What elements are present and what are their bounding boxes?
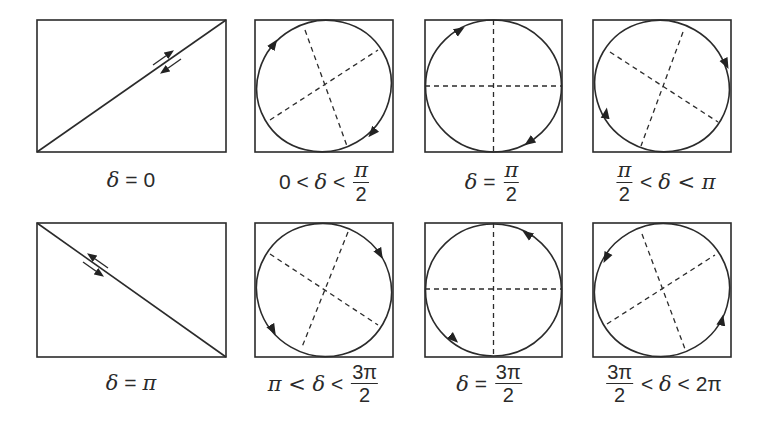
relation: < (634, 170, 658, 194)
relation: = (120, 168, 144, 192)
rotation-arrow-icon (372, 118, 385, 133)
label-delta-pi: δ = π (106, 371, 156, 395)
fraction: 3π 2 (495, 362, 522, 405)
panel-delta-0-to-pi-over-2 (233, 0, 416, 176)
denominator: 2 (359, 384, 370, 405)
fraction: 3π 2 (606, 362, 633, 405)
lower-bound: 0 < (279, 170, 315, 194)
polarization-ellipse (233, 0, 416, 176)
delta-symbol: δ (106, 371, 119, 395)
major-axis-dashed (607, 255, 715, 324)
value: 0 (143, 168, 155, 192)
fraction: π 2 (616, 160, 632, 204)
panel-delta-3pi-over-2 (425, 223, 562, 357)
denominator: 2 (619, 183, 630, 204)
label-delta-pi-over-2-to-pi: π 2 < δ < π (614, 160, 715, 204)
value: π (142, 371, 156, 395)
upper-bound: < π (671, 170, 716, 194)
polarization-ellipse (570, 199, 754, 381)
polarization-diagram (0, 0, 764, 423)
panel-frame (593, 20, 731, 152)
fraction: π 2 (353, 160, 369, 204)
major-axis-dashed (270, 50, 378, 120)
minor-axis-dashed (642, 234, 685, 349)
denominator: 2 (356, 183, 367, 204)
panel-delta-pi-to-3pi-over-2 (232, 199, 416, 381)
numerator: 3π (351, 362, 378, 384)
relation: = (469, 372, 493, 396)
minor-axis-dashed (641, 32, 683, 146)
delta-symbol: δ (465, 170, 478, 194)
polarization-ellipse (571, 0, 754, 176)
label-delta-0: δ = 0 (107, 168, 155, 192)
fraction: π 2 (503, 160, 519, 204)
numerator: 3π (606, 362, 633, 384)
panel-delta-pi-over-2-to-pi (571, 0, 754, 176)
rotation-arrow-icon (719, 50, 726, 64)
label-delta-3pi-over-2: δ = 3π 2 (456, 362, 524, 405)
major-axis-dashed (270, 254, 378, 325)
denominator: 2 (506, 183, 517, 204)
upper-bound: < 2π (672, 372, 722, 396)
numerator: π (616, 160, 632, 183)
rotation-arrow-icon (527, 234, 540, 243)
denominator: 2 (503, 384, 514, 405)
major-axis-dashed (610, 52, 718, 122)
relation: < (325, 372, 349, 396)
panel-delta-3pi-over-2-to-2pi (570, 199, 754, 381)
linear-polarization-line (37, 20, 226, 152)
label-delta-pi-to-3pi-over-2: π < δ < 3π 2 (268, 362, 380, 405)
numerator: π (353, 160, 369, 183)
denominator: 2 (614, 384, 625, 405)
label-delta-3pi-over-2-to-2pi: 3π 2 < δ < 2π (604, 362, 722, 405)
fraction: 3π 2 (351, 362, 378, 405)
label-delta-0-to-pi-over-2: 0 < δ < π 2 (279, 160, 371, 204)
delta-symbol: δ (313, 372, 326, 396)
delta-symbol: δ (659, 372, 672, 396)
delta-symbol: δ (658, 170, 671, 194)
numerator: π (503, 160, 519, 183)
relation: = (477, 170, 501, 194)
label-delta-pi-over-2: δ = π 2 (465, 160, 521, 204)
relation: < (327, 170, 351, 194)
numerator: 3π (495, 362, 522, 384)
panel-delta-0 (37, 20, 226, 152)
linear-polarization-line (37, 223, 226, 357)
delta-symbol: δ (107, 168, 120, 192)
delta-symbol: δ (456, 372, 469, 396)
lower-bound: π < (268, 372, 313, 396)
panel-frame (255, 20, 393, 152)
delta-symbol: δ (315, 170, 328, 194)
panel-delta-pi-over-2 (425, 20, 562, 152)
relation: = (118, 371, 142, 395)
relation: < (635, 372, 659, 396)
minor-axis-dashed (305, 30, 347, 146)
panel-delta-pi (37, 223, 226, 357)
